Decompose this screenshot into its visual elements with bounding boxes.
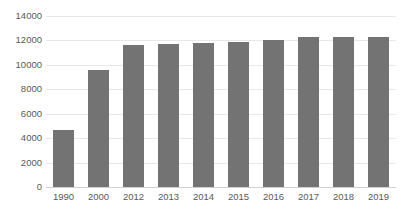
bar [333,37,354,187]
y-tick-label: 14000 [0,11,42,21]
y-tick-label: 6000 [0,109,42,119]
bar [298,37,319,187]
y-axis: 02000400060008000100001200014000 [0,0,42,213]
x-tick-label: 2017 [298,190,319,204]
x-tick-label: 2014 [193,190,214,204]
x-tick-label: 1990 [53,190,74,204]
y-tick-label: 2000 [0,158,42,168]
y-tick-label: 12000 [0,36,42,46]
x-tick-label: 2000 [88,190,109,204]
bar [263,40,284,187]
x-tick-label: 2015 [228,190,249,204]
bar [88,70,109,187]
x-axis: 1990200020122013201420152016201720182019 [46,190,396,206]
gridline [46,187,396,188]
bars-layer [46,16,396,187]
y-tick-label: 10000 [0,60,42,70]
bar [193,43,214,187]
bar [53,130,74,187]
x-tick-label: 2019 [368,190,389,204]
y-tick-label: 8000 [0,85,42,95]
plot-area [46,16,396,187]
x-tick-label: 2012 [123,190,144,204]
bar-chart: 02000400060008000100001200014000 1990200… [0,0,410,213]
y-tick-label: 4000 [0,133,42,143]
bar [228,42,249,187]
bar [158,44,179,187]
bar [368,37,389,187]
x-tick-label: 2013 [158,190,179,204]
y-tick-label: 0 [0,182,42,192]
x-tick-label: 2016 [263,190,284,204]
x-tick-label: 2018 [333,190,354,204]
bar [123,45,144,187]
